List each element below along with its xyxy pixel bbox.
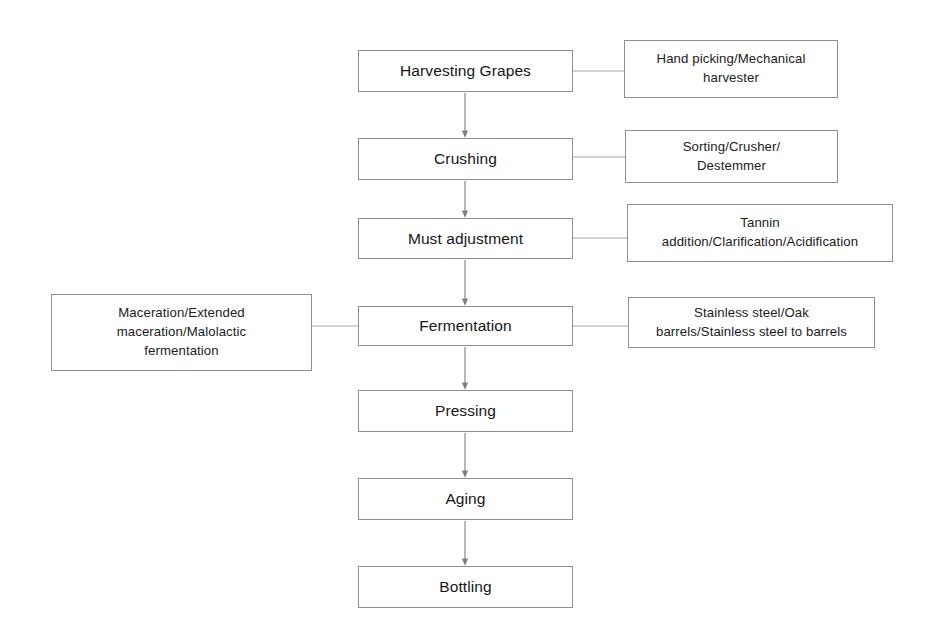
process-step-pressing[interactable]: Pressing: [358, 390, 573, 432]
annotation-box-crushing-methods[interactable]: Sorting/Crusher/ Destemmer: [625, 130, 838, 183]
annotation-box-label: Maceration/Extended maceration/Malolacti…: [60, 304, 303, 360]
process-step-label: Harvesting Grapes: [359, 60, 572, 82]
annotation-box-fermentation-vessels[interactable]: Stainless steel/Oak barrels/Stainless st…: [628, 297, 875, 348]
annotation-box-label: Sorting/Crusher/ Destemmer: [634, 138, 829, 175]
annotation-box-must-adjustment-methods[interactable]: Tannin addition/Clarification/Acidificat…: [627, 204, 893, 262]
note-connectors: [312, 71, 628, 326]
process-step-must-adjustment[interactable]: Must adjustment: [358, 218, 573, 259]
annotation-box-fermentation-techniques[interactable]: Maceration/Extended maceration/Malolacti…: [51, 294, 312, 371]
process-step-aging[interactable]: Aging: [358, 478, 573, 520]
process-step-label: Aging: [359, 488, 572, 510]
annotation-box-label: Stainless steel/Oak barrels/Stainless st…: [637, 304, 866, 341]
process-step-label: Bottling: [359, 576, 572, 598]
annotation-box-label: Hand picking/Mechanical harvester: [633, 50, 829, 87]
flowchart-canvas: Harvesting GrapesCrushingMust adjustment…: [0, 0, 934, 637]
process-step-label: Must adjustment: [359, 228, 572, 250]
process-step-harvesting[interactable]: Harvesting Grapes: [358, 50, 573, 92]
process-step-bottling[interactable]: Bottling: [358, 566, 573, 608]
process-step-label: Pressing: [359, 400, 572, 422]
process-step-crushing[interactable]: Crushing: [358, 138, 573, 180]
annotation-box-label: Tannin addition/Clarification/Acidificat…: [636, 214, 884, 251]
process-step-label: Crushing: [359, 148, 572, 170]
process-step-fermentation[interactable]: Fermentation: [358, 306, 573, 346]
annotation-box-harvesting-methods[interactable]: Hand picking/Mechanical harvester: [624, 40, 838, 98]
process-step-label: Fermentation: [359, 315, 572, 337]
